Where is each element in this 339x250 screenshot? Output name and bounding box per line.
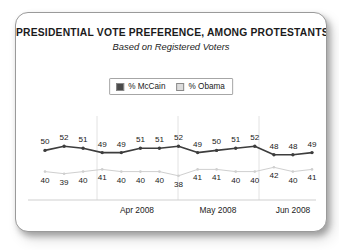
data-point-label: 49 xyxy=(117,140,126,149)
data-point-marker xyxy=(273,166,276,169)
data-point-marker xyxy=(234,147,237,150)
plot-area: 4039404140404038414140404240415052514949… xyxy=(16,108,327,230)
data-point-marker xyxy=(101,168,104,171)
data-point-label: 48 xyxy=(288,142,297,151)
data-point-label: 41 xyxy=(193,173,202,182)
data-point-label: 40 xyxy=(231,176,240,185)
data-point-marker xyxy=(254,170,257,173)
data-point-label: 39 xyxy=(60,178,69,187)
data-point-label: 51 xyxy=(231,135,240,144)
data-point-marker xyxy=(215,149,218,152)
data-point-label: 52 xyxy=(250,133,259,142)
chart-screenshot: PRESIDENTIAL VOTE PREFERENCE, AMONG PROT… xyxy=(0,0,339,250)
data-point-label: 40 xyxy=(117,176,126,185)
data-point-marker xyxy=(158,170,161,173)
data-point-marker xyxy=(311,168,314,171)
data-point-label: 40 xyxy=(40,176,49,185)
data-point-marker xyxy=(120,170,123,173)
data-point-label: 49 xyxy=(307,140,316,149)
data-point-marker xyxy=(234,170,237,173)
x-axis-tick-label: May 2008 xyxy=(200,205,237,215)
chart-subtitle: Based on Registered Voters xyxy=(16,41,326,52)
data-point-label: 51 xyxy=(79,135,88,144)
data-point-marker xyxy=(82,170,85,173)
data-point-label: 52 xyxy=(174,133,183,142)
data-point-label: 52 xyxy=(60,133,69,142)
chart-card: PRESIDENTIAL VOTE PREFERENCE, AMONG PROT… xyxy=(15,12,327,232)
data-point-marker xyxy=(272,153,275,156)
data-point-marker xyxy=(177,175,180,178)
data-point-marker xyxy=(44,170,47,173)
data-point-marker xyxy=(177,145,180,148)
data-point-marker xyxy=(196,151,199,154)
data-point-marker xyxy=(196,168,199,171)
data-point-label: 41 xyxy=(98,173,107,182)
chart-title: PRESIDENTIAL VOTE PREFERENCE, AMONG PROT… xyxy=(16,27,326,38)
data-point-marker xyxy=(158,147,161,150)
data-point-marker xyxy=(43,149,46,152)
data-point-marker xyxy=(139,147,142,150)
data-point-marker xyxy=(215,168,218,171)
data-point-marker xyxy=(139,170,142,173)
data-point-label: 42 xyxy=(269,171,278,180)
chart-legend: % McCain % Obama xyxy=(109,78,233,95)
x-axis-tick-label: Jun 2008 xyxy=(276,205,310,215)
data-point-marker xyxy=(310,151,313,154)
legend-item-obama[interactable]: % Obama xyxy=(176,82,224,91)
data-point-marker xyxy=(101,151,104,154)
data-point-label: 50 xyxy=(212,137,221,146)
data-point-label: 40 xyxy=(155,176,164,185)
legend-item-mccain[interactable]: % McCain xyxy=(116,82,165,91)
legend-swatch-icon xyxy=(176,83,184,91)
data-point-marker xyxy=(120,151,123,154)
data-point-label: 38 xyxy=(174,180,183,189)
data-point-marker xyxy=(63,172,66,175)
data-point-label: 49 xyxy=(98,140,107,149)
legend-item-label: % McCain xyxy=(128,82,165,91)
data-point-label: 40 xyxy=(288,176,297,185)
data-point-label: 51 xyxy=(136,135,145,144)
data-point-marker xyxy=(291,153,294,156)
legend-swatch-icon xyxy=(116,83,124,91)
data-point-label: 40 xyxy=(79,176,88,185)
legend-item-label: % Obama xyxy=(188,82,224,91)
data-point-marker xyxy=(81,147,84,150)
data-point-label: 49 xyxy=(193,140,202,149)
data-point-marker xyxy=(253,145,256,148)
data-point-label: 50 xyxy=(40,137,49,146)
data-point-label: 48 xyxy=(269,142,278,151)
data-point-label: 40 xyxy=(136,176,145,185)
x-axis-tick-label: Apr 2008 xyxy=(120,205,154,215)
data-point-label: 41 xyxy=(212,173,221,182)
data-point-label: 40 xyxy=(250,176,259,185)
data-point-marker xyxy=(292,170,295,173)
data-point-label: 51 xyxy=(155,135,164,144)
data-point-label: 41 xyxy=(307,173,316,182)
data-point-marker xyxy=(62,145,65,148)
